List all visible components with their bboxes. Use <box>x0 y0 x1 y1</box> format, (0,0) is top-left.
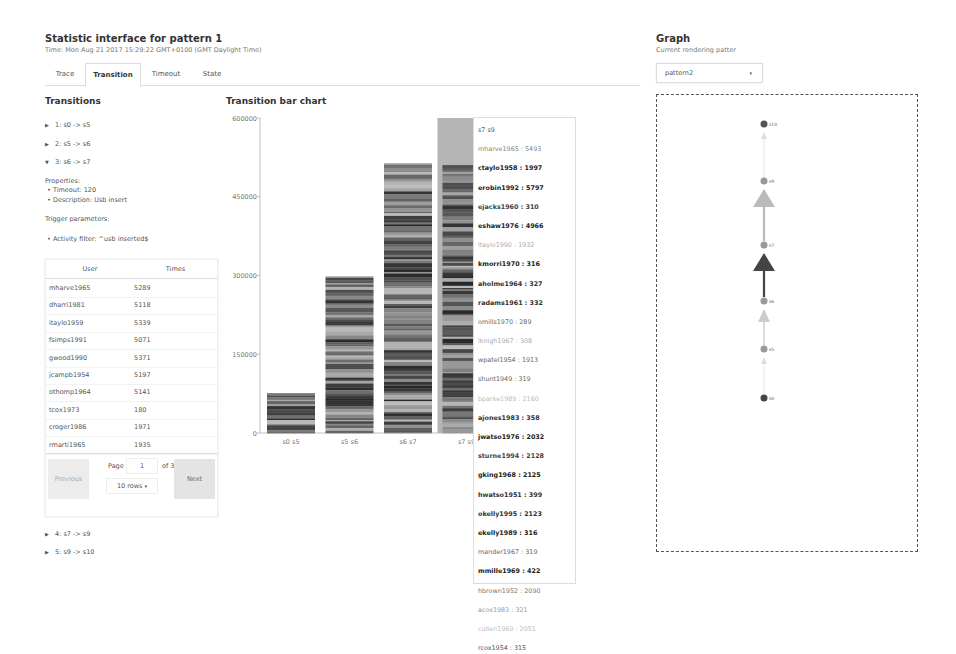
bar-segment <box>326 350 374 352</box>
bar-segment <box>384 216 432 220</box>
x-tick-label: s5 s6 <box>341 438 358 446</box>
page-number-input[interactable]: 1 <box>126 458 158 474</box>
bar-segment <box>384 165 432 169</box>
previous-button[interactable]: Previous <box>48 459 89 499</box>
tab-trace[interactable]: Trace <box>45 63 85 86</box>
pattern-select[interactable]: pattern2 ▾ <box>656 63 763 83</box>
bar-segment <box>326 312 374 315</box>
user-cell: itaylo1959 <box>49 314 84 333</box>
bar-segment <box>267 433 315 434</box>
bar-segment <box>326 280 374 283</box>
chevron-down-icon: ▾ <box>145 483 148 489</box>
bar-segment <box>384 353 432 357</box>
table-row: rmarti19651935 <box>46 436 217 455</box>
node-s0[interactable] <box>761 395 768 402</box>
property-timeout: • Timeout: 120 <box>47 186 96 194</box>
bar-segment <box>384 304 432 306</box>
bar-segment <box>326 425 374 428</box>
bar-segment <box>384 422 432 425</box>
bar-segment <box>326 393 374 395</box>
tab-timeout[interactable]: Timeout <box>141 63 191 86</box>
bar-segment <box>384 172 432 175</box>
node-s5[interactable] <box>761 346 768 353</box>
bar-s6-s7[interactable] <box>384 163 432 433</box>
bar-segment <box>384 283 432 287</box>
bar-segment <box>384 362 432 366</box>
y-tick-label: 450000 <box>232 193 257 201</box>
bar-segment <box>326 317 374 320</box>
node-s9[interactable] <box>761 178 768 185</box>
column-header-times[interactable]: Times <box>134 260 217 278</box>
property-description: • Description: Usb insert <box>47 196 127 204</box>
bar-segment <box>384 319 432 324</box>
graph-canvas: s10s9s7s6s5s0 <box>656 94 918 552</box>
bar-segment <box>384 405 432 409</box>
node-s10[interactable] <box>761 121 768 128</box>
bar-segment <box>384 277 432 280</box>
node-s6[interactable] <box>761 298 768 305</box>
tooltip-entry: radams1961 : 332 <box>478 294 571 313</box>
bar-segment <box>326 376 374 378</box>
bar-segment <box>326 412 374 414</box>
bar-segment <box>326 320 374 322</box>
transition-item[interactable]: ▶4: s7 -> s9 <box>45 530 90 538</box>
bar-segment <box>384 395 432 400</box>
table-row: mharve19655289 <box>46 279 217 298</box>
tooltip-entry: eshaw1976 : 4966 <box>478 217 571 236</box>
y-tick-label: 300000 <box>232 272 257 280</box>
bar-segment <box>326 331 374 336</box>
next-button[interactable]: Next <box>174 459 215 499</box>
bar-segment <box>384 350 432 353</box>
transition-item[interactable]: ▶1: s0 -> s5 <box>45 121 90 129</box>
node-label: s5 <box>769 347 774 352</box>
bar-segment <box>326 353 374 356</box>
transition-item[interactable]: ▶5: s9 -> s10 <box>45 548 95 556</box>
bar-segment <box>326 315 374 318</box>
times-cell: 5141 <box>134 383 151 402</box>
bar-s0-s5[interactable] <box>267 393 315 433</box>
bar-segment <box>384 257 432 259</box>
arrow-head-icon <box>761 132 767 139</box>
bar-segment <box>384 409 432 412</box>
caret-down-icon: ▼ <box>45 159 55 165</box>
column-header-user[interactable]: User <box>46 260 134 278</box>
bar-segment <box>384 244 432 247</box>
tab-transition[interactable]: Transition <box>85 63 141 87</box>
bar-segment <box>326 342 374 344</box>
bar-segment <box>326 373 374 377</box>
bar-segment <box>384 416 432 420</box>
bar-segment <box>326 322 374 326</box>
bar-segment <box>326 390 374 392</box>
bar-segment <box>384 306 432 308</box>
tooltip-entry: shunt1949 : 319 <box>478 370 571 389</box>
tooltip-entry: kmorri1970 : 316 <box>478 255 571 274</box>
bar-segment <box>384 379 432 382</box>
node-s7[interactable] <box>761 242 768 249</box>
timestamp: Time: Mon Aug 21 2017 15:29:22 GMT+0100 … <box>45 46 262 54</box>
node-label: s6 <box>769 299 774 304</box>
bar-segment <box>326 308 374 313</box>
bar-segment <box>384 316 432 318</box>
tooltip-entry: jwatso1976 : 2032 <box>478 428 571 447</box>
tooltip-entry: okelly1995 : 2123 <box>478 505 571 524</box>
tooltip-entry: omills1970 : 289 <box>478 313 571 332</box>
page-label: Page <box>108 462 124 470</box>
bar-segment <box>326 278 374 281</box>
bar-segment <box>384 334 432 337</box>
node-label: s0 <box>769 396 774 401</box>
tooltip-entry: mander1967 : 319 <box>478 543 571 562</box>
transition-item[interactable]: ▶2: s5 -> s6 <box>45 140 90 148</box>
bar-segment <box>384 344 432 348</box>
bar-segment <box>267 420 315 425</box>
tooltip-entry: aholme1964 : 327 <box>478 275 571 294</box>
bar-segment <box>384 175 432 179</box>
node-label: s7 <box>769 243 774 248</box>
tooltip-entry: bparke1989 : 2160 <box>478 390 571 409</box>
tab-state[interactable]: State <box>191 63 233 86</box>
bar-segment <box>326 359 374 362</box>
bar-segment <box>384 288 432 292</box>
tooltip-entry: acox1983 : 321 <box>478 601 571 620</box>
rows-per-page-select[interactable]: 10 rows ▾ <box>106 478 158 494</box>
transition-item-expanded[interactable]: ▼3: s6 -> s7 <box>45 158 90 166</box>
bar-s5-s6[interactable] <box>326 276 374 433</box>
